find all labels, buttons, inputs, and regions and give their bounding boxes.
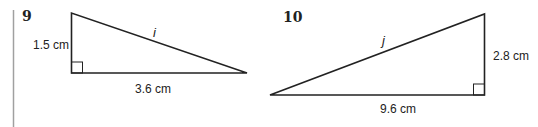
right-angle-marker — [72, 62, 83, 73]
hypotenuse-label: j — [380, 33, 386, 48]
vertical-side-label: 2.8 cm — [493, 49, 529, 63]
right-angle-marker — [474, 84, 485, 95]
hypotenuse-label: i — [153, 25, 157, 40]
problem-number: 10 — [283, 9, 303, 25]
problem-10: 10 j 2.8 cm 9.6 cm — [270, 9, 529, 116]
vertical-side-label: 1.5 cm — [33, 38, 69, 52]
horizontal-side-label: 9.6 cm — [380, 102, 416, 116]
right-triangle — [270, 14, 485, 95]
diagram-canvas: 9 i 1.5 cm 3.6 cm 10 j 2.8 cm 9.6 cm — [0, 0, 538, 127]
problem-number: 9 — [22, 8, 32, 24]
horizontal-side-label: 3.6 cm — [135, 82, 171, 96]
right-triangle — [72, 13, 248, 73]
problem-9: 9 i 1.5 cm 3.6 cm — [22, 8, 247, 96]
